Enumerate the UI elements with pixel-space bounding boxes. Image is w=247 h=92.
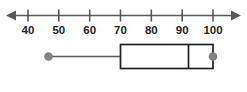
tick-label-100: 100: [203, 24, 222, 36]
axis-arrow-right-icon: [231, 11, 241, 21]
axis-arrow-left-icon: [6, 11, 16, 21]
boxplot-figure: 40 50 60 70 80 90 100: [0, 0, 247, 92]
axis-tick-labels: 40 50 60 70 80 90 100: [22, 24, 223, 36]
tick-label-80: 80: [145, 24, 158, 36]
minimum-dot: [44, 52, 53, 61]
tick-label-40: 40: [22, 24, 35, 36]
tick-label-60: 60: [83, 24, 96, 36]
box-rect: [121, 45, 214, 69]
boxplot-svg: 40 50 60 70 80 90 100: [0, 0, 247, 92]
tick-label-90: 90: [176, 24, 189, 36]
number-line-axis: [6, 11, 241, 21]
box-whisker-group: [44, 45, 217, 69]
tick-label-70: 70: [114, 24, 127, 36]
tick-label-50: 50: [52, 24, 65, 36]
maximum-dot: [209, 52, 218, 61]
